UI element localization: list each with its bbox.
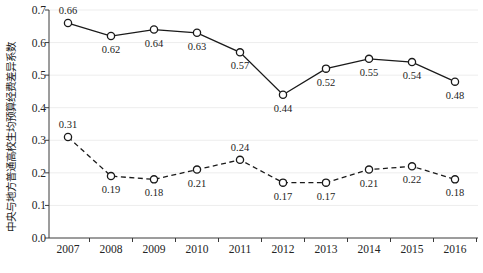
series-lines [68, 23, 455, 183]
data-point-marker [279, 179, 286, 186]
x-axis-tick-label: 2009 [143, 243, 166, 255]
data-point-marker [408, 59, 415, 66]
plot-area [0, 0, 483, 273]
data-point-marker [107, 32, 114, 39]
x-axis-tick-label: 2012 [272, 243, 295, 255]
x-axis-tick-label: 2011 [229, 243, 252, 255]
x-axis-tick-label: 2015 [401, 243, 424, 255]
data-point-marker [236, 156, 243, 163]
data-point-marker [64, 133, 71, 140]
x-axis-tick-label: 2008 [100, 243, 123, 255]
data-point-marker [408, 163, 415, 170]
data-point-marker [150, 26, 157, 33]
series-markers [64, 19, 458, 186]
data-point-marker [322, 179, 329, 186]
x-axis-tick-label: 2014 [358, 243, 381, 255]
data-point-marker [279, 91, 286, 98]
x-axis-tick-label: 2013 [315, 243, 338, 255]
data-point-marker [365, 55, 372, 62]
data-point-marker [365, 166, 372, 173]
series-line-upper-series [68, 23, 455, 95]
data-point-marker [193, 29, 200, 36]
data-point-marker [64, 19, 71, 26]
data-point-marker [322, 65, 329, 72]
x-axis-tick-label: 2007 [57, 243, 80, 255]
x-axis-tick-label: 2016 [444, 243, 467, 255]
line-chart: 中央与地方普通高校生均预算经费差异系数 0.00.10.20.30.40.50.… [0, 0, 483, 273]
series-line-lower-series [68, 137, 455, 183]
data-point-marker [451, 176, 458, 183]
x-axis-tick-label: 2010 [186, 243, 209, 255]
data-point-marker [193, 166, 200, 173]
axis-lines [45, 10, 478, 242]
data-point-marker [150, 176, 157, 183]
data-point-marker [451, 78, 458, 85]
data-point-marker [107, 173, 114, 180]
data-point-marker [236, 49, 243, 56]
